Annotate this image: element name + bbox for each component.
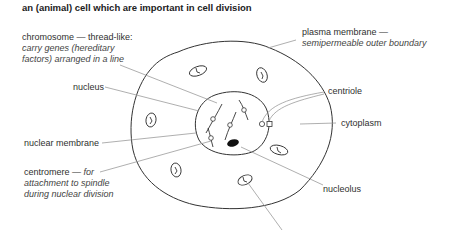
label-centromere: centromere — for attachment to spindle d… bbox=[24, 167, 114, 200]
chromosome-title: chromosome — thread-like: bbox=[22, 32, 133, 43]
leader-mitochondrion bbox=[248, 183, 282, 230]
label-nucleus: nucleus bbox=[73, 82, 104, 93]
label-plasma-membrane: plasma membrane — semipermeable outer bo… bbox=[302, 27, 427, 49]
label-nuclear-membrane: nuclear membrane bbox=[24, 138, 99, 149]
leader-nucleolus bbox=[241, 147, 323, 185]
chromosome-desc-2: factors) arranged in a line bbox=[22, 54, 133, 65]
label-centriole: centriole bbox=[328, 86, 362, 97]
plasma-membrane-title: plasma membrane — bbox=[302, 27, 427, 38]
leader-chromosome bbox=[120, 65, 217, 103]
centromere-desc-2: during nuclear division bbox=[24, 189, 114, 200]
leader-cytoplasm bbox=[300, 123, 336, 124]
centromere-title: centromere — bbox=[24, 167, 84, 177]
centriole-circle bbox=[259, 121, 264, 126]
centriole-square bbox=[267, 122, 272, 127]
plasma-membrane-desc: semipermeable outer boundary bbox=[302, 38, 427, 49]
centromere-title-italic: for bbox=[84, 167, 95, 177]
label-nucleolus: nucleolus bbox=[323, 184, 361, 195]
leader-centromere bbox=[100, 141, 211, 172]
label-cytoplasm: cytoplasm bbox=[341, 118, 382, 129]
nucleolus bbox=[226, 138, 239, 148]
chromosome-desc-1: carry genes (hereditary bbox=[22, 43, 133, 54]
centromere-desc-1: attachment to spindle bbox=[24, 178, 114, 189]
leader-nuclear-membrane bbox=[102, 133, 196, 143]
leader-plasma-membrane bbox=[268, 40, 296, 48]
label-chromosome: chromosome — thread-like: carry genes (h… bbox=[22, 32, 133, 65]
